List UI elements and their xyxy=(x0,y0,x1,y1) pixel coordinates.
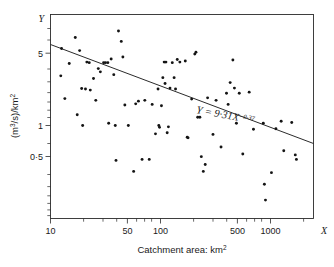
data-point xyxy=(114,124,117,127)
data-point xyxy=(262,122,265,125)
x-tick-label-500: 500 xyxy=(230,226,245,236)
data-point xyxy=(225,92,228,95)
data-point xyxy=(169,87,172,90)
data-point xyxy=(194,51,197,54)
data-point xyxy=(160,104,163,107)
y-tick-label-5: 5 xyxy=(38,49,43,59)
data-point xyxy=(164,82,167,85)
data-point xyxy=(231,59,234,62)
data-point xyxy=(106,61,109,64)
x-tick-label-100: 100 xyxy=(153,226,168,236)
y-tick-label-1: 1 xyxy=(38,121,43,131)
chart-canvas: 5 1 0·5 10 50 100 500 1000 Y X Catchment… xyxy=(0,0,334,267)
data-point xyxy=(229,81,232,84)
data-point xyxy=(78,49,81,52)
data-point xyxy=(143,99,146,102)
data-point xyxy=(80,87,83,90)
data-point xyxy=(167,125,170,128)
data-point xyxy=(132,170,135,173)
data-point xyxy=(206,96,209,99)
regression-equation-label: Y = 9·31X−0·37 xyxy=(196,104,257,126)
data-point xyxy=(157,88,160,91)
data-point xyxy=(227,103,230,106)
data-point xyxy=(121,56,124,59)
data-point xyxy=(294,153,297,156)
regression-line xyxy=(51,45,314,144)
x-tick-label-50: 50 xyxy=(122,226,132,236)
data-point xyxy=(141,158,144,161)
data-point xyxy=(176,58,179,61)
data-point xyxy=(174,88,177,91)
data-point xyxy=(212,133,215,136)
scatter-chart-figure: 5 1 0·5 10 50 100 500 1000 Y X Catchment… xyxy=(0,0,334,267)
x-tick-label-1000: 1000 xyxy=(260,226,280,236)
data-point xyxy=(164,61,167,64)
data-point xyxy=(68,62,71,65)
data-point xyxy=(76,113,79,116)
data-point xyxy=(84,88,87,91)
data-point xyxy=(97,67,100,70)
data-point xyxy=(74,36,77,39)
data-point xyxy=(263,183,266,186)
data-point xyxy=(274,127,277,130)
data-point xyxy=(137,100,140,103)
data-point xyxy=(235,122,238,125)
y-tick-label-0-5: 0·5 xyxy=(30,152,43,162)
data-point xyxy=(290,121,293,124)
data-point xyxy=(173,76,176,79)
data-point xyxy=(241,153,244,156)
data-point xyxy=(127,124,130,127)
data-point xyxy=(220,146,223,149)
data-point xyxy=(120,40,123,43)
x-axis-variable-name: X xyxy=(320,225,328,236)
data-point xyxy=(204,163,207,166)
data-point xyxy=(202,170,205,173)
data-point xyxy=(89,89,92,92)
x-axis-title: Catchment area: km2 xyxy=(137,244,227,256)
data-point xyxy=(112,73,115,76)
data-point xyxy=(154,132,157,135)
scatter-points-group xyxy=(59,30,298,202)
data-point xyxy=(248,91,251,94)
data-point xyxy=(63,97,66,100)
data-point xyxy=(107,122,110,125)
y-axis-ticks xyxy=(46,29,51,216)
data-point xyxy=(60,47,63,50)
data-point xyxy=(99,70,102,73)
data-point xyxy=(295,158,298,161)
data-point xyxy=(94,99,97,102)
data-point xyxy=(166,131,169,134)
data-point xyxy=(264,199,267,202)
data-point xyxy=(270,171,273,174)
data-point xyxy=(198,116,201,119)
data-point xyxy=(252,128,255,131)
data-point xyxy=(200,155,203,158)
data-point xyxy=(280,120,283,123)
y-axis-title: (m3/s)/km2 xyxy=(9,94,21,139)
data-point xyxy=(151,103,154,106)
data-point xyxy=(190,98,193,101)
x-tick-label-10: 10 xyxy=(45,226,55,236)
data-point xyxy=(117,30,120,33)
data-point xyxy=(81,124,84,127)
data-point xyxy=(110,57,113,60)
data-point xyxy=(187,136,190,139)
data-point xyxy=(215,99,218,102)
data-point xyxy=(92,77,95,80)
data-point xyxy=(115,159,118,162)
data-point xyxy=(88,61,91,64)
data-point xyxy=(123,104,126,107)
data-point xyxy=(59,74,62,77)
data-point xyxy=(134,102,137,105)
data-point xyxy=(158,126,161,129)
data-point xyxy=(282,149,285,152)
data-point xyxy=(148,158,151,161)
data-point xyxy=(171,61,174,64)
data-point xyxy=(184,60,187,63)
data-point xyxy=(233,87,236,90)
data-point xyxy=(161,76,164,79)
plot-frame xyxy=(51,15,314,219)
data-point xyxy=(178,61,181,64)
data-point xyxy=(238,92,241,95)
y-axis-variable-name: Y xyxy=(38,13,45,24)
